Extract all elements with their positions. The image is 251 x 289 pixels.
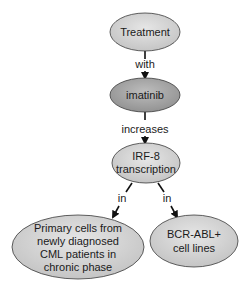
- ellipse-shape: [150, 215, 238, 267]
- edge-label-in-right: in: [163, 192, 172, 204]
- edge-label-increases: increases: [121, 123, 169, 135]
- edge-irf8-bcr-abl: in: [158, 183, 177, 217]
- node-label-line-2: newly diagnosed: [37, 235, 119, 247]
- node-label-line-1: BCR-ABL+: [167, 228, 221, 240]
- edge-label-in-left: in: [118, 192, 127, 204]
- node-label: Treatment: [120, 26, 170, 38]
- edge-imatinib-irf8: increases: [121, 112, 169, 143]
- node-bcr-abl-cell-lines: BCR-ABL+ cell lines: [150, 215, 238, 267]
- node-treatment: Treatment: [110, 13, 180, 51]
- edge-label-with: with: [134, 58, 155, 70]
- node-label-line-3: CML patients in: [40, 248, 116, 260]
- edge-treatment-imatinib: with: [134, 51, 155, 78]
- node-label-line-2: cell lines: [173, 242, 216, 254]
- edge-line: [158, 183, 164, 192]
- node-label-line-1: Primary cells from: [34, 222, 122, 234]
- arrow-down-left-icon: [113, 206, 119, 217]
- node-label-line-4: chronic phase: [44, 261, 113, 273]
- node-primary-cells: Primary cells from newly diagnosed CML p…: [12, 215, 144, 279]
- node-label-line-1: IRF-8: [132, 150, 160, 162]
- node-irf8-transcription: IRF-8 transcription: [112, 143, 180, 183]
- edge-line: [126, 183, 132, 192]
- arrow-down-right-icon: [171, 206, 177, 217]
- node-label-line-2: transcription: [116, 163, 176, 175]
- node-label: imatinib: [126, 89, 164, 101]
- concept-map: with increases in in Treatment imatinib …: [0, 0, 251, 289]
- edge-irf8-primary-cells: in: [113, 183, 132, 217]
- node-imatinib: imatinib: [110, 78, 180, 112]
